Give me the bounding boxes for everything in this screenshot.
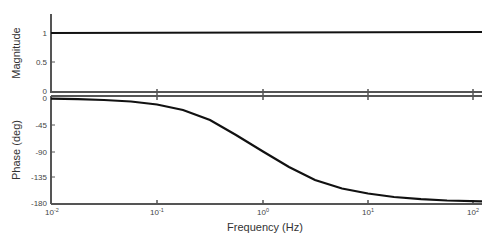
mag-ylabel: Magnitude (10, 27, 22, 78)
phase-curve (51, 99, 482, 202)
phase-tick-135: -135 (31, 173, 48, 182)
mag-tick-1: 1 (43, 29, 48, 38)
xtick-1e0: 100 (257, 207, 269, 217)
mag-tick-05: 0.5 (36, 58, 48, 67)
phase-tick-45: -45 (35, 121, 47, 130)
phase-tick-180: -180 (31, 199, 48, 208)
xtick-1e-1: 10-1 (150, 207, 164, 217)
phase-panel: 0 -45 -90 -135 -180 10-2 10-1 100 101 10… (10, 89, 482, 233)
magnitude-curve (51, 32, 482, 33)
xlabel: Frequency (Hz) (227, 221, 303, 233)
phase-tick-90: -90 (35, 148, 47, 157)
xtick-1e1: 101 (362, 207, 374, 217)
xtick-1e-2: 10-2 (45, 207, 59, 217)
phase-ylabel: Phase (deg) (10, 120, 22, 180)
xtick-1e2: 102 (467, 207, 479, 217)
bode-plot: 1 0.5 0 Magnitude 0 -45 -90 -135 -180 10… (0, 0, 502, 239)
phase-tick-0: 0 (43, 94, 48, 103)
magnitude-panel: 1 0.5 0 Magnitude (10, 14, 482, 96)
